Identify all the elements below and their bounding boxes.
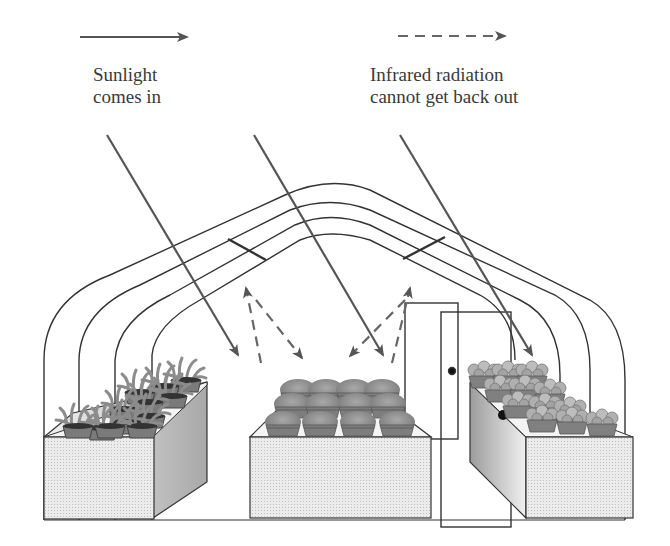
infrared-ray-up-1 — [246, 288, 261, 363]
sunlight-rays — [107, 135, 532, 355]
sunlight-ray-3 — [400, 135, 532, 355]
greenhouse-diagram — [0, 0, 670, 546]
infrared-rays — [246, 288, 410, 363]
door-handle-icon — [449, 368, 456, 375]
bench-center — [250, 379, 431, 518]
bench-right — [468, 361, 633, 518]
sunlight-ray-2 — [254, 135, 383, 355]
infrared-ray-down-1 — [256, 300, 302, 358]
sunlight-ray-1 — [107, 135, 238, 355]
bench-left — [44, 358, 207, 519]
infrared-ray-up-2 — [392, 288, 410, 363]
